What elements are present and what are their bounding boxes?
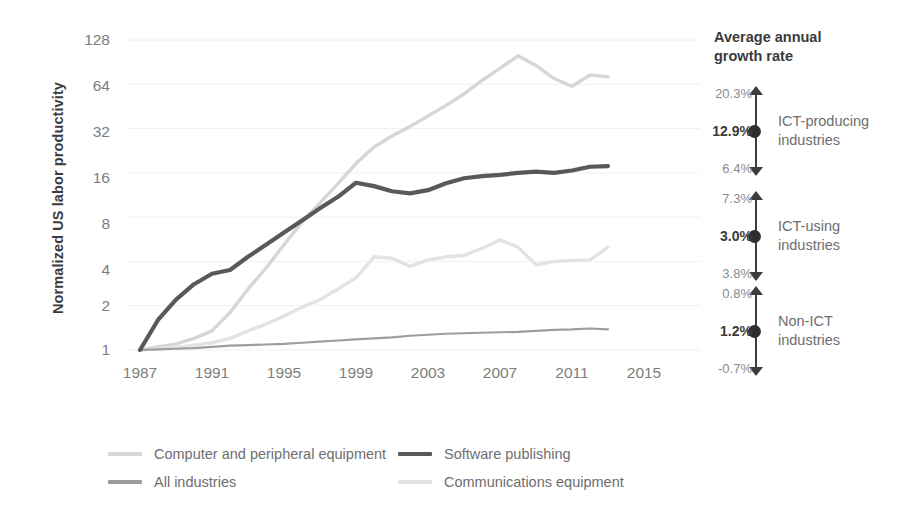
legend-item-communications[interactable]: Communications equipment	[398, 468, 688, 496]
annotation-high-value: 7.3%	[722, 191, 752, 206]
y-tick-2: 2	[101, 297, 110, 315]
annotation-group-ict-producing: 20.3% 12.9% 6.4% ICT-producing industrie…	[690, 88, 918, 174]
y-tick-128: 128	[84, 31, 110, 49]
legend-label: Software publishing	[444, 446, 571, 462]
legend-label: Computer and peripheral equipment	[154, 446, 386, 462]
gridlines	[128, 40, 700, 350]
legend-item-computer[interactable]: Computer and peripheral equipment	[108, 440, 398, 468]
annotation-label: ICT-using industries	[778, 217, 840, 254]
y-tick-32: 32	[93, 123, 110, 141]
x-tick-2011: 2011	[555, 364, 588, 382]
annotation-high-value: 0.8%	[722, 286, 752, 301]
y-axis-ticks: 128 64 32 16 8 4 2 1	[38, 0, 110, 520]
annotation-low-value: 3.8%	[722, 266, 752, 281]
legend-swatch-icon	[398, 480, 432, 484]
x-tick-2015: 2015	[627, 364, 661, 382]
legend-label: All industries	[154, 474, 236, 490]
legend-swatch-icon	[108, 452, 142, 456]
legend-item-software[interactable]: Software publishing	[398, 440, 688, 468]
annotation-low-value: -0.7%	[718, 361, 752, 376]
legend-item-all-industries[interactable]: All industries	[108, 468, 398, 496]
y-tick-8: 8	[101, 215, 110, 233]
y-tick-1: 1	[101, 341, 110, 359]
annotation-high-value: 20.3%	[715, 86, 752, 101]
annotation-group-ict-using: 7.3% 3.0% 3.8% ICT-using industries	[690, 193, 918, 279]
annotation-label: ICT-producing industries	[778, 112, 869, 149]
legend-label: Communications equipment	[444, 474, 624, 490]
x-tick-2003: 2003	[411, 364, 445, 382]
series-lines	[140, 56, 608, 350]
annotation-mid-value: 12.9%	[712, 123, 752, 139]
x-tick-2007: 2007	[483, 364, 517, 382]
x-tick-1987: 1987	[123, 364, 157, 382]
annotation-group-non-ict: 0.8% 1.2% -0.7% Non-ICT industries	[690, 288, 918, 374]
annotation-mid-value: 3.0%	[720, 228, 752, 244]
y-tick-4: 4	[101, 261, 110, 279]
x-tick-1995: 1995	[267, 364, 301, 382]
annotation-label: Non-ICT industries	[778, 312, 840, 349]
annotation-panel-title: Average annual growth rate	[714, 28, 904, 66]
annotation-mid-value: 1.2%	[720, 323, 752, 339]
chart-root: Normalized US labor productivity 128 64 …	[0, 0, 918, 520]
legend-swatch-icon	[398, 452, 432, 456]
annotation-low-value: 6.4%	[722, 161, 752, 176]
x-tick-1999: 1999	[339, 364, 373, 382]
y-tick-16: 16	[93, 169, 110, 187]
x-tick-1991: 1991	[195, 364, 229, 382]
y-tick-64: 64	[93, 77, 110, 95]
legend-swatch-icon	[108, 480, 142, 484]
legend: Computer and peripheral equipment Softwa…	[108, 440, 688, 496]
